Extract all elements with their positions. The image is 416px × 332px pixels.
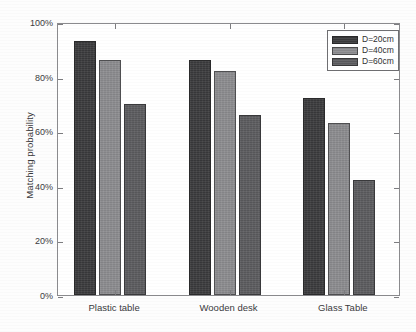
- y-axis-title: Matching probability: [24, 76, 35, 236]
- legend-color-swatch: [332, 58, 358, 66]
- x-axis-category-label: Wooden desk: [169, 302, 289, 313]
- x-axis-category-label: Plastic table: [54, 302, 174, 313]
- bar-chart-figure: Matching probability 0%20%40%60%80%100% …: [0, 0, 416, 332]
- x-axis-tick-mark-top: [230, 24, 231, 29]
- bar: [328, 123, 350, 295]
- y-axis-tick-mark-right: [394, 242, 399, 243]
- legend-color-swatch: [332, 47, 358, 55]
- y-axis-tick-mark: [58, 79, 63, 80]
- y-axis-tick-label: 20%: [7, 236, 53, 246]
- x-axis-tick-mark: [230, 290, 231, 295]
- legend-item-label: D=60cm: [362, 56, 394, 67]
- y-axis-tick-mark: [58, 188, 63, 189]
- y-axis-tick-label: 80%: [7, 73, 53, 83]
- y-axis-tick-mark: [58, 24, 63, 25]
- y-axis-tick-mark-right: [394, 297, 399, 298]
- y-axis-tick-label: 0%: [7, 291, 53, 301]
- bar: [303, 98, 325, 295]
- bar: [214, 71, 236, 295]
- y-axis-tick-mark-right: [394, 133, 399, 134]
- legend-item: D=40cm: [332, 45, 394, 56]
- legend-color-swatch: [332, 36, 358, 44]
- y-axis-tick-mark: [58, 242, 63, 243]
- x-axis-tick-mark-top: [115, 24, 116, 29]
- y-axis-tick-mark-right: [394, 24, 399, 25]
- y-axis-tick-mark: [58, 133, 63, 134]
- x-axis-tick-mark: [115, 290, 116, 295]
- y-axis-tick-label: 60%: [7, 127, 53, 137]
- y-axis-tick-mark-right: [394, 79, 399, 80]
- y-axis-tick-mark-right: [394, 188, 399, 189]
- legend-item-label: D=20cm: [362, 34, 394, 45]
- legend-item-label: D=40cm: [362, 45, 394, 56]
- x-axis-category-label: Glass Table: [283, 302, 403, 313]
- y-axis-tick-label: 40%: [7, 182, 53, 192]
- bar: [353, 180, 375, 295]
- bar: [239, 115, 261, 295]
- y-axis-tick-label: 100%: [7, 18, 53, 28]
- x-axis-tick-mark-top: [344, 24, 345, 29]
- y-axis-tick-mark: [58, 297, 63, 298]
- bar: [124, 104, 146, 295]
- x-axis-tick-mark: [344, 290, 345, 295]
- legend-item: D=20cm: [332, 34, 394, 45]
- bar: [74, 41, 96, 295]
- legend-item: D=60cm: [332, 56, 394, 67]
- bar: [99, 60, 121, 295]
- bar: [189, 60, 211, 295]
- chart-legend: D=20cmD=40cmD=60cm: [327, 30, 399, 71]
